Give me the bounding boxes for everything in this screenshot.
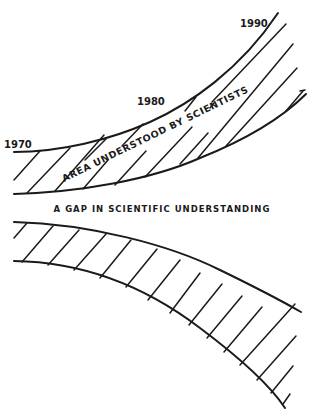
top-band-lower-edge [14, 94, 306, 194]
hatch-line [180, 133, 208, 164]
bottom-band-upper-edge [14, 222, 301, 312]
hatch-line [207, 296, 242, 338]
hatch-line [240, 304, 295, 365]
year-label-1990: 1990 [240, 18, 268, 29]
hatch-line [189, 284, 222, 325]
top-band-hatching [14, 24, 305, 193]
hatch-line [22, 226, 53, 262]
year-label-1980: 1980 [137, 96, 165, 107]
hatch-line [226, 68, 297, 146]
year-label-1970: 1970 [4, 139, 32, 150]
hatch-line [48, 230, 79, 265]
gap-label: A GAP IN SCIENTIFIC UNDERSTANDING [54, 204, 271, 214]
hatch-line [271, 366, 293, 393]
hatch-line [286, 91, 303, 111]
hatch-line [100, 240, 131, 278]
hatch-line [212, 24, 286, 102]
bottom-band-area [14, 222, 301, 408]
knowledge-gap-diagram: 1970 1980 1990 AREA UNDERSTOOD BY SCIENT… [0, 0, 317, 413]
hatch-line [126, 249, 157, 287]
bottom-band-hatching [14, 223, 296, 404]
hatch-line [14, 223, 27, 238]
hatch-line [27, 148, 70, 193]
hatch-line [283, 394, 290, 404]
hatch-line [170, 273, 200, 313]
hatch-line [257, 336, 296, 380]
hatch-line [224, 307, 262, 352]
hatch-line [14, 151, 40, 180]
hatch-line [148, 260, 180, 300]
hatch-line [74, 234, 106, 270]
